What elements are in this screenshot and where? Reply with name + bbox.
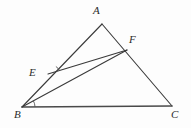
- side-AC: [102, 24, 172, 106]
- segment-EF: [48, 50, 127, 74]
- vertex-label-A: A: [93, 5, 100, 16]
- vertex-label-B: B: [14, 109, 21, 120]
- side-BC: [22, 106, 172, 107]
- vertex-label-E: E: [29, 67, 36, 78]
- vertex-label-F: F: [129, 34, 136, 45]
- segment-BF: [22, 50, 127, 107]
- angle-mark-at-B: [33, 101, 35, 107]
- vertex-label-C: C: [171, 109, 178, 120]
- geometry-canvas: [0, 0, 191, 128]
- geometry-figure: A B C E F: [0, 0, 191, 128]
